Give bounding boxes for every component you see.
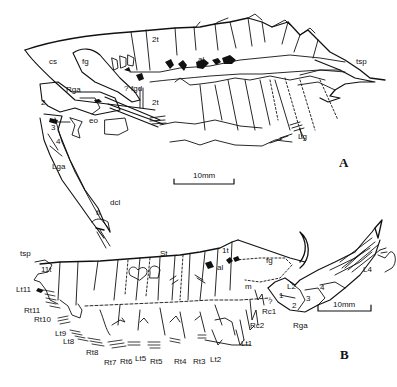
- label-3: 3: [51, 124, 55, 132]
- label-tl: tl: [96, 209, 100, 217]
- label-1t: 1t: [222, 247, 229, 255]
- scale-label-b: 10mm: [333, 300, 355, 309]
- label-fg: fg: [82, 58, 89, 66]
- label-lga: Lga: [52, 163, 65, 171]
- label-al: al: [198, 56, 204, 64]
- label-m: m: [245, 283, 252, 291]
- label-lt11: Lt11: [16, 286, 31, 294]
- label-seg3: 3: [306, 295, 310, 303]
- label-rt4: Rt4: [174, 358, 186, 366]
- label-lt5: Lt5: [135, 355, 146, 363]
- panel-a-drawing: [25, 14, 385, 248]
- label-2t-mid: 2t: [152, 99, 159, 107]
- label-rt11: Rt11: [24, 307, 40, 315]
- label-2t-top: 2t: [152, 36, 159, 44]
- label-rga-b: Rga: [293, 322, 308, 330]
- label-question: ?: [124, 85, 128, 93]
- panel-letter-b: B: [340, 347, 349, 363]
- scale-label-a: 10mm: [193, 171, 215, 180]
- panel-b-drawing: [34, 220, 395, 348]
- label-fg-b: fg: [266, 257, 273, 265]
- label-seg1: 1: [279, 292, 283, 300]
- label-l2: L2: [287, 283, 296, 291]
- label-cs: cs: [49, 58, 57, 66]
- label-lt9: Lt9: [55, 330, 66, 338]
- label-al-b: al: [217, 264, 223, 272]
- panel-letter-a: A: [339, 155, 348, 171]
- label-2: 2: [41, 99, 45, 107]
- label-4: 4: [56, 138, 60, 146]
- label-question-b: ?: [268, 298, 272, 306]
- label-dcl: dcl: [110, 199, 120, 207]
- label-rc2: Rc2: [250, 322, 264, 330]
- label-tsp: tsp: [356, 58, 367, 66]
- label-rc1: Rc1: [262, 308, 276, 316]
- label-l4: L4: [363, 266, 372, 274]
- label-rt8: Rt8: [86, 349, 98, 357]
- label-fgd: fgd: [131, 85, 142, 93]
- label-rt6: Rt6: [120, 358, 132, 366]
- label-lt2: Lt2: [210, 356, 221, 364]
- label-lt1: Lt1: [241, 340, 252, 348]
- label-seg2: 2: [292, 302, 296, 310]
- label-lt8: Lt8: [63, 338, 74, 346]
- label-eo: eo: [89, 117, 98, 125]
- label-lg: Lg: [298, 133, 307, 141]
- label-st: St: [160, 250, 168, 258]
- label-11t: 11t: [41, 266, 52, 274]
- label-rga: Rga: [66, 86, 81, 94]
- label-tsp-b: tsp: [20, 250, 31, 258]
- label-rt7: Rt7: [104, 359, 116, 367]
- label-rt3: Rt3: [193, 358, 205, 366]
- label-seg4: 4: [320, 284, 324, 292]
- label-rt5: Rt5: [150, 358, 162, 366]
- label-rt10: Rt10: [34, 316, 51, 324]
